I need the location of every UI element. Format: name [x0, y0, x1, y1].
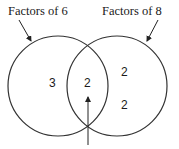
right-set-label: Factors of 8: [102, 4, 162, 18]
venn-diagram: Factors of 6 Factors of 8 3 2 2 2: [0, 0, 179, 149]
right-top-value: 2: [121, 65, 128, 79]
left-label-arrow: [19, 20, 31, 41]
left-set-label: Factors of 6: [8, 4, 68, 18]
factors-of-6-circle: [8, 36, 108, 136]
factors-of-8-circle: [67, 36, 167, 136]
intersection-value: 2: [84, 76, 91, 90]
left-only-value: 3: [49, 76, 56, 90]
right-bottom-value: 2: [121, 98, 128, 112]
right-label-arrow: [147, 20, 158, 41]
